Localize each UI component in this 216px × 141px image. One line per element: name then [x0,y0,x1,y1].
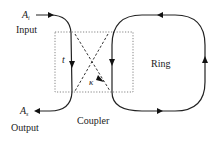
ring-label: Ring [151,58,170,69]
ring-resonator-diagram: Ai Input As Output t κ Ring Coupler [0,0,216,141]
output-arrow-icon [34,108,40,114]
ring-top-left-arrow-icon [157,12,163,18]
input-field-label: Ai [21,9,30,21]
input-label: Input [16,24,37,35]
coupler-region-box [55,32,133,92]
ring-bottom-right-arrow-icon [157,108,163,114]
transmission-label: t [62,54,65,65]
coupler-label: Coupler [77,115,110,126]
output-label: Output [11,122,39,133]
input-arrow-icon [48,12,54,18]
coupling-arrow-icon [96,75,104,82]
ring-right-up-arrow-icon [202,56,208,63]
output-field-label: As [19,105,29,117]
coupling-label: κ [89,77,94,87]
ring-left-down-arrow-icon [109,59,115,66]
bus-waveguide [34,12,75,114]
bus-down-arrow-icon [69,61,75,68]
